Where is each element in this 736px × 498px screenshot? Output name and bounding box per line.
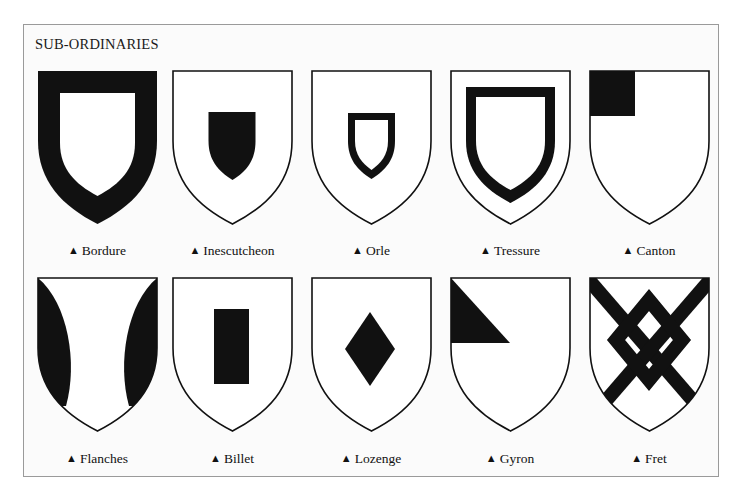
label-lozenge: ▲Lozenge bbox=[291, 451, 451, 467]
lozenge-icon bbox=[311, 277, 432, 433]
gyron-icon bbox=[450, 277, 571, 433]
inescutcheon-icon bbox=[172, 70, 293, 226]
shield-inescutcheon bbox=[172, 70, 296, 226]
orle-icon bbox=[311, 70, 432, 226]
shield-gyron bbox=[450, 277, 574, 433]
shield-fret bbox=[589, 277, 713, 433]
shield-bordure bbox=[37, 70, 161, 226]
label-tressure: ▲Tressure bbox=[430, 243, 590, 259]
triangle-marker-icon: ▲ bbox=[486, 452, 497, 464]
triangle-marker-icon: ▲ bbox=[480, 244, 491, 256]
shield-lozenge bbox=[311, 277, 435, 433]
triangle-marker-icon: ▲ bbox=[210, 452, 221, 464]
label-canton: ▲Canton bbox=[569, 243, 729, 259]
label-inescutcheon: ▲Inescutcheon bbox=[152, 243, 312, 259]
triangle-marker-icon: ▲ bbox=[189, 244, 200, 256]
billet-icon bbox=[172, 277, 293, 433]
label-billet: ▲Billet bbox=[152, 451, 312, 467]
triangle-marker-icon: ▲ bbox=[631, 452, 642, 464]
triangle-marker-icon: ▲ bbox=[66, 452, 77, 464]
tressure-icon bbox=[450, 70, 571, 226]
label-orle: ▲Orle bbox=[291, 243, 451, 259]
canton-icon bbox=[589, 70, 710, 226]
triangle-marker-icon: ▲ bbox=[341, 452, 352, 464]
triangle-marker-icon: ▲ bbox=[623, 244, 634, 256]
fret-icon bbox=[589, 277, 710, 433]
shield-orle bbox=[311, 70, 435, 226]
shield-tressure bbox=[450, 70, 574, 226]
triangle-marker-icon: ▲ bbox=[68, 244, 79, 256]
label-fret: ▲Fret bbox=[569, 451, 729, 467]
flanches-icon bbox=[37, 277, 158, 433]
shield-canton bbox=[589, 70, 713, 226]
triangle-marker-icon: ▲ bbox=[352, 244, 363, 256]
shield-flanches bbox=[37, 277, 161, 433]
shield-billet bbox=[172, 277, 296, 433]
bordure-icon bbox=[37, 70, 158, 226]
figure-title: SUB-ORDINARIES bbox=[35, 36, 159, 53]
label-gyron: ▲Gyron bbox=[430, 451, 590, 467]
